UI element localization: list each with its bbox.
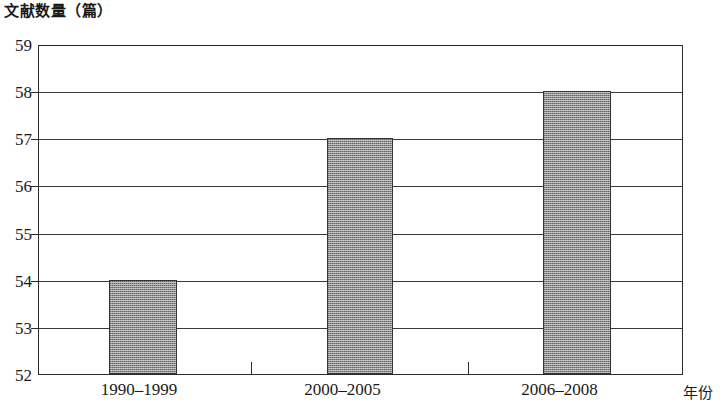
x-tick-mark-1 bbox=[251, 362, 252, 375]
y-tick-mark-57 bbox=[31, 139, 38, 140]
y-tick-label-52: 52 bbox=[2, 367, 32, 384]
y-tick-mark-53 bbox=[31, 328, 38, 329]
y-tick-mark-56 bbox=[31, 186, 38, 187]
x-category-label-2: 2000–2005 bbox=[251, 380, 434, 400]
y-tick-label-56: 56 bbox=[2, 178, 32, 195]
y-tick-label-55: 55 bbox=[2, 226, 32, 243]
x-category-label-1: 1990–1999 bbox=[34, 380, 244, 400]
x-tick-mark-2 bbox=[468, 362, 469, 375]
y-tick-label-54: 54 bbox=[2, 273, 32, 290]
bar-1990-1999 bbox=[109, 280, 177, 374]
plot-area bbox=[38, 45, 683, 375]
x-axis-title: 年份 bbox=[683, 383, 713, 403]
y-tick-mark-55 bbox=[31, 234, 38, 235]
bar-2000-2005 bbox=[327, 138, 393, 374]
y-tick-mark-54 bbox=[31, 281, 38, 282]
y-tick-mark-58 bbox=[31, 92, 38, 93]
x-category-label-3: 2006–2008 bbox=[468, 380, 651, 400]
y-tick-label-58: 58 bbox=[2, 84, 32, 101]
y-tick-label-59: 59 bbox=[2, 37, 32, 54]
y-tick-label-57: 57 bbox=[2, 131, 32, 148]
bar-2006-2008 bbox=[543, 91, 611, 374]
y-tick-label-53: 53 bbox=[2, 320, 32, 337]
chart-title: 文献数量（篇） bbox=[4, 1, 113, 21]
